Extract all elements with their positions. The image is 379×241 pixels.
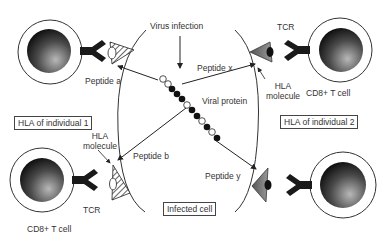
- hla-molecule-label-right: HLA molecule: [263, 81, 303, 101]
- peptide-y-arrow: [215, 140, 256, 169]
- tcr-icon: [72, 169, 98, 191]
- cd8-label-top-right: CD8+ T cell: [306, 88, 350, 98]
- cd8-label-bottom-left: CD8+ T cell: [27, 224, 71, 234]
- infected-cell-box: Infected cell: [163, 202, 216, 216]
- peptide-b-label: Peptide b: [133, 151, 169, 161]
- tcr-label-top-right: TCR: [277, 22, 294, 32]
- diagram-canvas: Virus infection Peptide a Peptide x Vira…: [0, 0, 379, 241]
- viral-protein-label: Viral protein: [202, 96, 247, 106]
- t-cell-bottom-left: [10, 148, 98, 212]
- t-cell-bottom-right: [286, 152, 376, 218]
- hla-molecule-bottom-right: [252, 168, 272, 202]
- peptide-a-label: Peptide a: [85, 76, 121, 86]
- viral-protein-chain: [160, 76, 221, 142]
- hla-molecule-bottom-left: [110, 165, 131, 200]
- t-cell-top-left: [18, 20, 106, 84]
- hla-pointer-right: [258, 68, 265, 79]
- virus-infection-label: Virus infection: [150, 21, 203, 31]
- hla-individual-1-box: HLA of individual 1: [14, 116, 92, 130]
- peptide-a-arrow: [118, 66, 158, 80]
- t-cell-top-right: [284, 18, 372, 82]
- hla-pointer-left: [98, 150, 110, 163]
- tcr-label-bottom-left: TCR: [83, 205, 100, 215]
- hla-individual-2-box: HLA of individual 2: [280, 115, 358, 129]
- hla-molecule-label-left: HLA molecule: [80, 131, 120, 151]
- peptide-y-label: Peptide y: [205, 171, 240, 181]
- infected-cell-membrane: [118, 30, 259, 212]
- tcr-icon: [286, 174, 312, 196]
- tcr-icon: [284, 40, 310, 61]
- peptide-x-label: Peptide x: [197, 63, 232, 73]
- hla-molecule-top-right: [250, 42, 274, 62]
- tcr-icon: [80, 40, 106, 62]
